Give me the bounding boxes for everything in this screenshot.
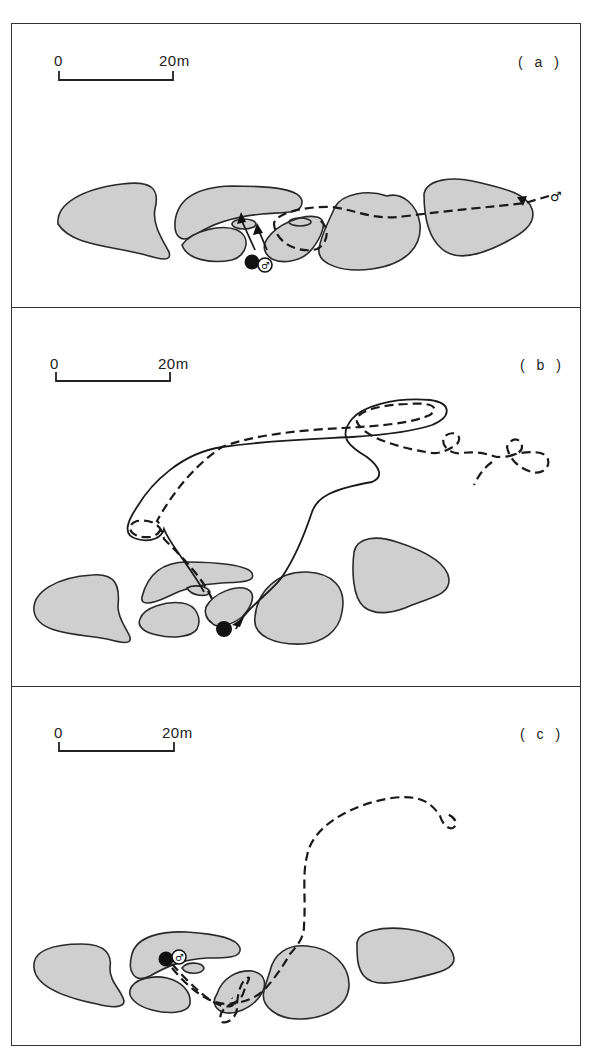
rock [255, 572, 343, 644]
male-symbol-icon: ♂ [175, 952, 184, 963]
panel-a: 0 20m ( a ) ♂ [11, 23, 581, 308]
rock [187, 586, 210, 595]
panel-c: 0 20m ( c ) ♂ [11, 686, 581, 1046]
scale-bar [59, 742, 174, 751]
rock [205, 588, 252, 626]
panel-a-map: ♂ ♂ [12, 24, 580, 307]
panel-c-map: ♂ [12, 686, 580, 1044]
male-path [130, 404, 548, 599]
rock [353, 538, 449, 613]
female-marker-icon [159, 952, 174, 967]
rock [34, 575, 130, 643]
rock [357, 928, 454, 983]
male-symbol-icon: ♂ [261, 260, 270, 271]
male-symbol-icon: ♂ [550, 189, 562, 204]
rock [130, 977, 190, 1013]
female-marker-icon [216, 621, 232, 637]
scale-bar [56, 372, 170, 381]
panel-b: 0 20m ( b ) [11, 307, 581, 687]
panel-b-map [12, 307, 580, 685]
rock [214, 971, 264, 1013]
scale-bar [59, 71, 173, 80]
rock [182, 963, 204, 973]
rock [424, 179, 533, 256]
rock [263, 946, 349, 1019]
rock [58, 183, 170, 259]
figure: 0 20m ( a ) ♂ [0, 0, 598, 1062]
rock [319, 193, 420, 270]
rock [34, 944, 124, 1007]
female-marker-icon [245, 255, 260, 270]
rock [139, 603, 199, 637]
